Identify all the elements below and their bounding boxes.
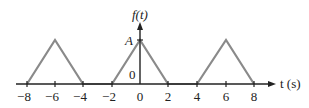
peak-label: A [124,33,133,48]
tick-label: −6 [45,89,59,104]
y-axis-label: f(t) [132,7,148,22]
tick-label: 2 [165,89,172,104]
tick-label: 4 [194,89,201,104]
tick-label: −8 [17,89,31,104]
origin-label: 0 [129,67,136,82]
x-axis-arrow-icon [268,81,276,87]
tick-label: −2 [102,89,116,104]
tick-label: 8 [251,89,258,104]
triangular-wave-diagram: −8 −6 −4 −2 0 2 4 6 8 f(t) A 0 t (s) [0,0,309,108]
tick-label: −4 [73,89,87,104]
x-axis-label: t (s) [280,76,301,91]
tick-label: 0 [137,89,144,104]
tick-label: 6 [223,89,230,104]
y-axis-arrow-icon [137,22,143,30]
